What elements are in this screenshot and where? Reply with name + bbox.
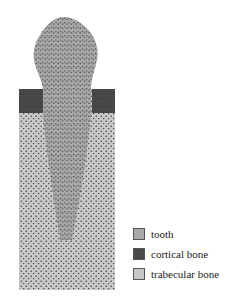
cortical-bone-swatch <box>133 248 145 260</box>
legend-label: trabecular bone <box>151 268 219 280</box>
legend-item-cortical-bone: cortical bone <box>133 244 219 264</box>
legend-item-tooth: tooth <box>133 224 219 244</box>
tooth-swatch <box>133 228 145 240</box>
legend: tooth cortical bone trabecular bone <box>133 224 219 284</box>
legend-item-trabecular-bone: trabecular bone <box>133 264 219 284</box>
legend-label: cortical bone <box>151 248 208 260</box>
trabecular-bone-swatch <box>133 268 145 280</box>
legend-label: tooth <box>151 228 174 240</box>
